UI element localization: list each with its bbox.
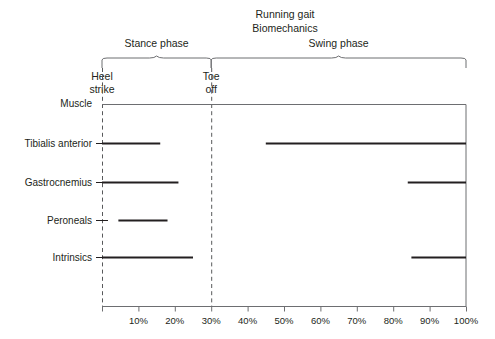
x-tick-label: 40% — [238, 315, 258, 326]
figure-canvas: Running gait Biomechanics Stance phase S… — [0, 0, 495, 339]
x-tick-label: 100% — [454, 315, 479, 326]
x-axis-ticks-layer: 10%20%30%40%50%60%70%80%90%100% — [103, 307, 479, 326]
muscle-row: Intrinsics — [53, 252, 466, 263]
chart-title-line1: Running gait — [256, 8, 315, 20]
chart-title-line2: Biomechanics — [252, 22, 317, 34]
x-tick-label: 80% — [384, 315, 404, 326]
phase-label-stance: Stance phase — [124, 37, 188, 49]
x-tick-label: 30% — [202, 315, 222, 326]
muscle-row: Tibialis anterior — [25, 138, 466, 149]
x-tick-label: 20% — [165, 315, 185, 326]
muscle-row-label: Peroneals — [47, 215, 92, 226]
swing-phase-brace — [211, 56, 466, 68]
event-dashed-lines — [103, 68, 212, 306]
muscle-row-label: Gastrocnemius — [25, 177, 92, 188]
row-header-muscle: Muscle — [60, 98, 92, 109]
stance-phase-brace — [102, 56, 211, 68]
running-gait-chart: Running gait Biomechanics Stance phase S… — [0, 0, 495, 339]
muscle-rows-layer: Tibialis anteriorGastrocnemiusPeronealsI… — [25, 138, 466, 263]
muscle-row: Gastrocnemius — [25, 177, 466, 188]
x-tick-label: 10% — [129, 315, 149, 326]
muscle-row-label: Intrinsics — [53, 252, 92, 263]
x-tick-label: 90% — [420, 315, 440, 326]
phase-brace-group — [102, 56, 466, 68]
x-tick-label: 70% — [347, 315, 367, 326]
x-tick-label: 60% — [311, 315, 331, 326]
x-tick-label: 50% — [274, 315, 294, 326]
muscle-row: Peroneals — [47, 215, 168, 226]
phase-label-swing: Swing phase — [309, 37, 369, 49]
muscle-row-label: Tibialis anterior — [25, 138, 93, 149]
